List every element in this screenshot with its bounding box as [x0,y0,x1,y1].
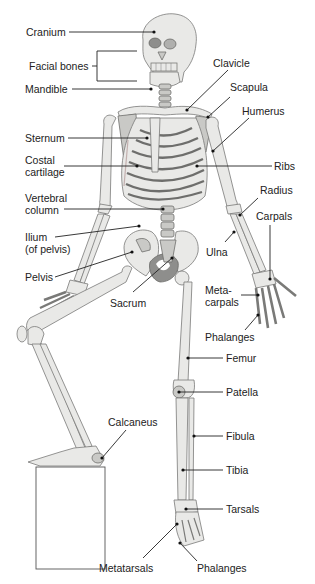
skull [143,14,197,87]
label-clavicle: Clavicle [213,57,250,69]
label-carpals: Carpals [256,210,292,222]
label-calcaneus: Calcaneus [108,416,158,428]
standing-leg [173,271,204,546]
label-mandible: Mandible [25,83,68,95]
label-ulna: Ulna [206,246,228,258]
lumbar-vertebrae [161,206,174,237]
label-pelvis: Pelvis [25,271,53,283]
support-block [36,467,105,569]
label-facial-bones: Facial bones [29,60,89,72]
label-radius: Radius [260,184,293,196]
label-scapula: Scapula [230,81,268,93]
label-ribs: Ribs [274,160,295,172]
label-tibia: Tibia [226,464,248,476]
label-metacarpals-line1: Meta- [205,284,232,296]
label-patella: Patella [226,386,258,398]
skeleton-diagram: Cranium Facial bones Mandible Clavicle S… [0,0,315,584]
cervical-vertebrae [159,84,171,107]
label-costal-cartilage-line2: cartilage [25,166,65,178]
label-vertebral-column-line1: Vertebral [25,192,67,204]
label-tarsals: Tarsals [226,503,259,515]
label-metacarpals-line2: carpals [205,296,239,308]
label-sacrum: Sacrum [110,297,146,309]
label-vertebral-column-line2: column [25,204,59,216]
rib-cage [122,118,208,210]
label-phalanges-foot: Phalanges [197,562,247,574]
raised-leg [17,266,132,466]
label-sternum: Sternum [25,132,65,144]
label-cranium: Cranium [26,26,66,38]
label-fibula: Fibula [226,430,255,442]
label-ilium-line1: Ilium [25,231,47,243]
label-ilium-line2: (of pelvis) [25,243,71,255]
label-humerus: Humerus [242,105,285,117]
label-phalanges-hand: Phalanges [205,331,255,343]
label-metatarsals: Metatarsals [99,562,153,574]
label-femur: Femur [226,352,256,364]
label-costal-cartilage-line1: Costal [25,154,55,166]
